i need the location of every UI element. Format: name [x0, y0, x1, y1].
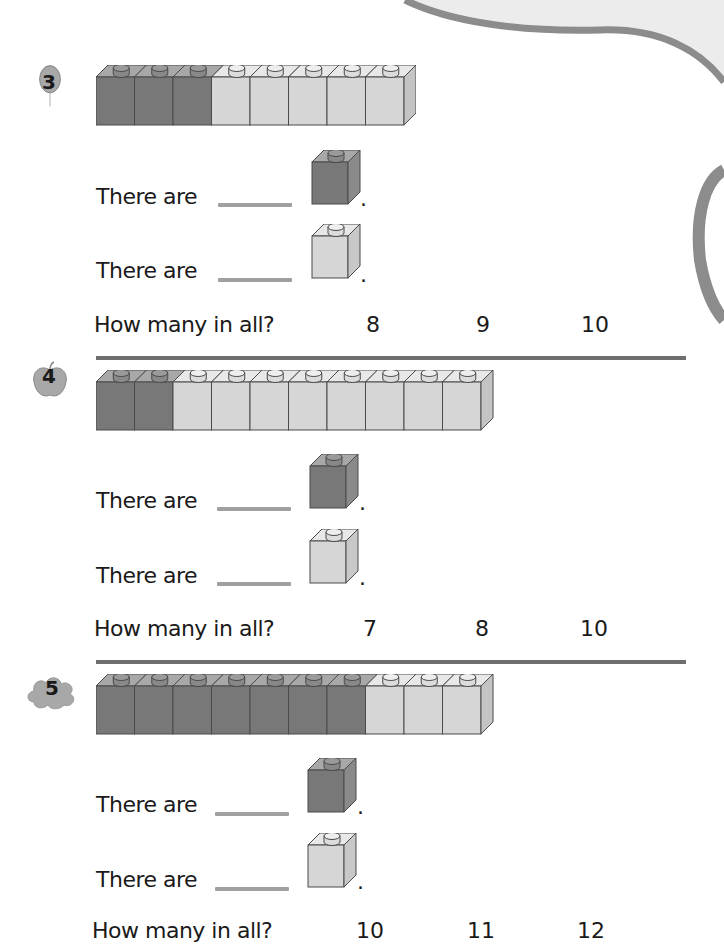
- choice-8[interactable]: 8: [353, 312, 393, 337]
- light-cube-icon: [306, 833, 358, 893]
- answer-blank-dark[interactable]: [217, 507, 291, 511]
- prompt-dark-count: There are: [96, 488, 197, 513]
- prompt-text: There are: [96, 488, 197, 513]
- problem-number: 4: [42, 364, 56, 388]
- prompt-text: There are: [96, 792, 197, 817]
- problem-number: 3: [42, 70, 56, 94]
- period: .: [359, 565, 366, 590]
- answer-blank-dark[interactable]: [215, 812, 289, 816]
- choice-9[interactable]: 9: [463, 312, 503, 337]
- problem-number: 5: [45, 676, 59, 700]
- answer-blank-light[interactable]: [218, 278, 292, 282]
- period: .: [357, 869, 364, 894]
- dark-cube-icon: [308, 454, 360, 514]
- light-cube-icon: [308, 529, 360, 589]
- prompt-dark-count: There are: [96, 184, 197, 209]
- prompt-text: There are: [96, 867, 197, 892]
- period: .: [359, 490, 366, 515]
- question-how-many: How many in all?: [92, 918, 272, 943]
- answer-blank-light[interactable]: [215, 887, 289, 891]
- prompt-text: There are: [96, 258, 197, 283]
- period: .: [360, 262, 367, 287]
- cube-train-2-dark-8-light: [96, 370, 496, 436]
- choice-7[interactable]: 7: [350, 616, 390, 641]
- choice-10[interactable]: 10: [575, 312, 615, 337]
- choice-10[interactable]: 10: [350, 918, 390, 943]
- prompt-light-count: There are: [96, 563, 197, 588]
- choice-8[interactable]: 8: [462, 616, 502, 641]
- prompt-dark-count: There are: [96, 792, 197, 817]
- section-divider: [96, 356, 686, 360]
- dark-cube-icon: [310, 150, 362, 210]
- choice-12[interactable]: 12: [571, 918, 611, 943]
- period: .: [357, 794, 364, 819]
- section-divider: [96, 660, 686, 664]
- cube-train-7-dark-3-light: [96, 674, 496, 740]
- choice-10[interactable]: 10: [574, 616, 614, 641]
- question-how-many: How many in all?: [94, 616, 274, 641]
- light-cube-icon: [310, 224, 362, 284]
- choice-11[interactable]: 11: [461, 918, 501, 943]
- period: .: [360, 186, 367, 211]
- prompt-text: There are: [96, 184, 197, 209]
- answer-blank-dark[interactable]: [218, 203, 292, 207]
- cube-train-3-dark-5-light: [96, 65, 416, 131]
- question-how-many: How many in all?: [94, 312, 274, 337]
- answer-blank-light[interactable]: [217, 582, 291, 586]
- dark-cube-icon: [306, 758, 358, 818]
- prompt-text: There are: [96, 563, 197, 588]
- prompt-light-count: There are: [96, 258, 197, 283]
- prompt-light-count: There are: [96, 867, 197, 892]
